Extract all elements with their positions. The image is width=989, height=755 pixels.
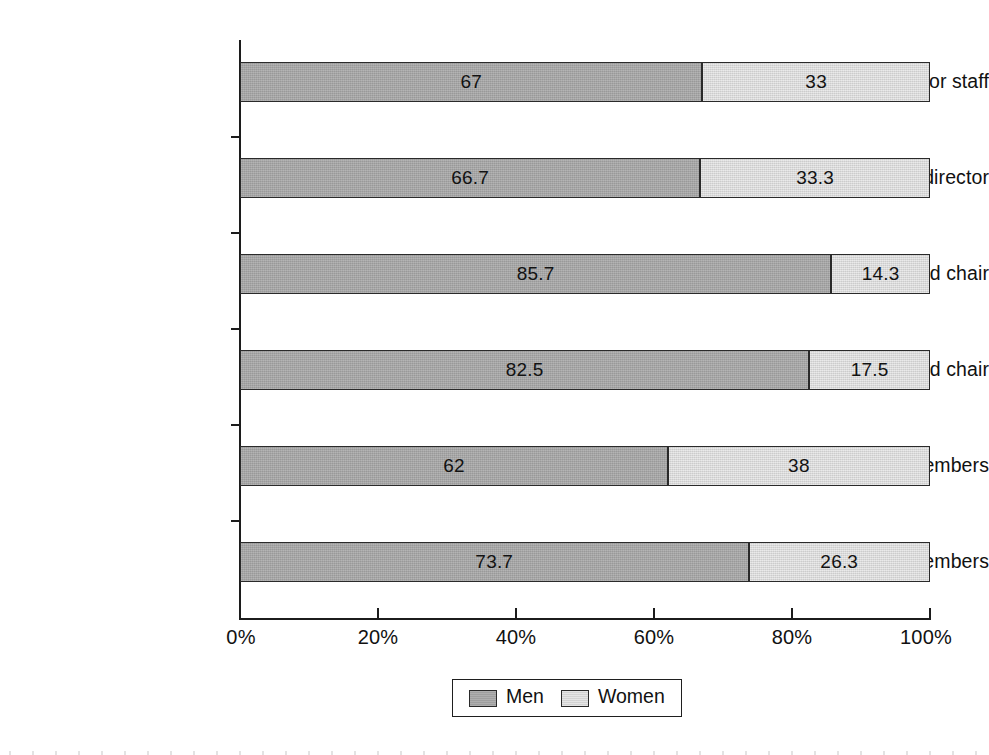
bar-value-label-men: 85.7 [517, 264, 555, 283]
x-axis-tick-label: 100% [900, 626, 952, 649]
stacked-bar-chart-figure: NSO senior staff Athletic director MSO b… [0, 0, 989, 755]
bar-value-label-women: 38 [788, 456, 810, 475]
bar-value-label-women: 33 [805, 72, 827, 91]
bar-value-label-men: 73.7 [475, 552, 513, 571]
bar-segment-women[interactable]: 17.5 [809, 350, 930, 390]
bar-row: 62 38 [240, 446, 930, 486]
bar-segment-men[interactable]: 73.7 [240, 542, 749, 582]
y-axis-tick [231, 232, 240, 234]
x-axis-line [239, 618, 931, 620]
y-axis-tick [231, 424, 240, 426]
scan-artifact [0, 742, 989, 755]
bar-segment-men[interactable]: 66.7 [240, 158, 700, 198]
bar-row: 67 33 [240, 62, 930, 102]
legend-item-men[interactable]: Men [469, 688, 544, 708]
bar-value-label-women: 17.5 [851, 360, 889, 379]
bar-segment-women[interactable]: 33.3 [700, 158, 930, 198]
x-axis-tick-label: 20% [358, 626, 399, 649]
x-axis-tick-label: 40% [496, 626, 537, 649]
bar-value-label-women: 14.3 [862, 264, 900, 283]
bar-segment-women[interactable]: 26.3 [749, 542, 931, 582]
bar-segment-women[interactable]: 33 [702, 62, 930, 102]
bar-segment-men[interactable]: 85.7 [240, 254, 831, 294]
women-swatch-icon [561, 690, 589, 707]
y-axis-tick [231, 136, 240, 138]
bar-row: 82.5 17.5 [240, 350, 930, 390]
y-axis-tick [231, 520, 240, 522]
x-axis-tick-label: 80% [772, 626, 813, 649]
bar-row: 66.7 33.3 [240, 158, 930, 198]
bar-row: 85.7 14.3 [240, 254, 930, 294]
bar-value-label-women: 33.3 [796, 168, 834, 187]
bar-value-label-men: 66.7 [451, 168, 489, 187]
bar-row: 73.7 26.3 [240, 542, 930, 582]
x-axis-tick-label: 0% [226, 626, 255, 649]
bar-segment-men[interactable]: 62 [240, 446, 668, 486]
bar-value-label-men: 62 [443, 456, 465, 475]
chart-legend: Men Women [452, 679, 682, 717]
legend-label-men: Men [506, 687, 544, 707]
bar-value-label-men: 82.5 [506, 360, 544, 379]
bar-segment-women[interactable]: 38 [668, 446, 930, 486]
bar-value-label-women: 26.3 [820, 552, 858, 571]
plot-area: 67 33 66.7 33.3 85.7 14.3 82.5 [240, 40, 930, 618]
bar-segment-women[interactable]: 14.3 [831, 254, 930, 294]
y-axis-tick [231, 328, 240, 330]
bar-segment-men[interactable]: 67 [240, 62, 702, 102]
legend-label-women: Women [598, 687, 665, 707]
x-axis-tick-label: 60% [634, 626, 675, 649]
bar-segment-men[interactable]: 82.5 [240, 350, 809, 390]
bar-value-label-men: 67 [460, 72, 482, 91]
legend-item-women[interactable]: Women [561, 688, 665, 708]
men-swatch-icon [469, 690, 497, 707]
